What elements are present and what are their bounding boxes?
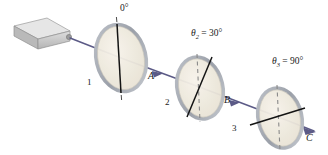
polarizer-2-angle-value: = 30° bbox=[201, 28, 222, 38]
polarizer-2 bbox=[171, 53, 229, 124]
light-source bbox=[14, 18, 72, 49]
beam-label-b: B bbox=[224, 95, 230, 105]
diagram-canvas bbox=[0, 0, 328, 155]
polarizer-1-angle-label: 0° bbox=[120, 4, 129, 14]
polarizer-3 bbox=[252, 84, 307, 152]
beam-label-a: A bbox=[148, 71, 154, 81]
polarizer-1-angle-value: 0° bbox=[120, 3, 129, 13]
polarizer-3-number-label: 3 bbox=[232, 124, 237, 133]
polarizer-2-number-label: 2 bbox=[165, 98, 170, 107]
optics-diagram: 0° θ2 = 30° θ3 = 90° 1 2 3 A B C bbox=[0, 0, 328, 155]
polarizer-3-angle-label: θ3 = 90° bbox=[272, 57, 303, 68]
beam-label-c: C bbox=[306, 133, 313, 143]
polarizer-1-number-label: 1 bbox=[87, 78, 92, 87]
axis-tick-1-top bbox=[116, 17, 117, 22]
polarizer-3-angle-value: = 90° bbox=[282, 56, 303, 66]
polarizer-2-angle-label: θ2 = 30° bbox=[191, 29, 222, 40]
